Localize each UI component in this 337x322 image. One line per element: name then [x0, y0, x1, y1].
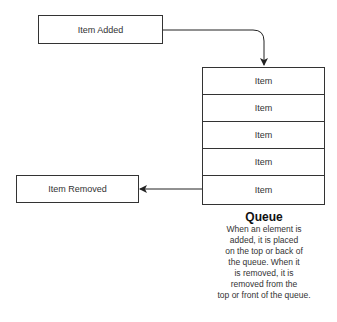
item-added-box: Item Added	[38, 15, 163, 44]
add-arrow	[163, 30, 264, 65]
caption-line: is removed, it is	[198, 268, 330, 279]
caption-title: Queue	[198, 210, 330, 224]
item-removed-label: Item Removed	[48, 184, 107, 194]
caption-line: added, it is placed	[198, 235, 330, 246]
queue-item: Item	[203, 122, 324, 149]
queue-item-label: Item	[255, 130, 273, 140]
queue-item: Item	[203, 176, 324, 204]
caption-line: When an element is	[198, 224, 330, 235]
queue-item-label: Item	[255, 103, 273, 113]
caption-line: top or front of the queue.	[198, 290, 330, 301]
caption-body: When an element is added, it is placed o…	[198, 224, 330, 301]
queue-stack: Item Item Item Item Item	[202, 67, 325, 205]
queue-caption: Queue When an element is added, it is pl…	[198, 210, 330, 301]
queue-item-label: Item	[255, 157, 273, 167]
queue-item: Item	[203, 68, 324, 95]
queue-item: Item	[203, 149, 324, 176]
item-added-label: Item Added	[78, 25, 124, 35]
caption-line: the queue. When it	[198, 257, 330, 268]
queue-item-label: Item	[255, 185, 273, 195]
caption-line: on the top or back of	[198, 246, 330, 257]
caption-line: removed from the	[198, 279, 330, 290]
item-removed-box: Item Removed	[16, 175, 139, 203]
queue-item-label: Item	[255, 76, 273, 86]
queue-item: Item	[203, 95, 324, 122]
